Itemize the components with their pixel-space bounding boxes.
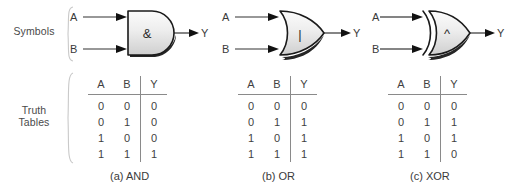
table-row: 0 0 0 <box>88 95 167 115</box>
cell-y: 0 <box>141 114 168 130</box>
cell-a: 0 <box>88 95 114 115</box>
column-header-y: Y <box>141 76 168 95</box>
column-header-a: A <box>388 76 414 95</box>
column-header-y: Y <box>441 76 468 95</box>
cell-a: 1 <box>88 130 114 146</box>
table-row: 1 0 0 <box>88 130 167 146</box>
cell-y: 1 <box>441 130 468 146</box>
cell-a: 1 <box>238 130 264 146</box>
gate-xor-input-wires <box>380 13 423 53</box>
column-header-b: B <box>414 76 441 95</box>
column-header-y: Y <box>291 76 318 95</box>
cell-b: 0 <box>264 130 291 146</box>
row-label-symbols: Symbols <box>6 25 62 37</box>
caption-xor: (c) XOR <box>410 170 450 182</box>
cell-b: 1 <box>414 146 441 162</box>
cell-b: 1 <box>114 114 141 130</box>
column-header-b: B <box>114 76 141 95</box>
gate-or-output-wire <box>323 29 351 37</box>
column-header-a: A <box>88 76 114 95</box>
cell-a: 0 <box>388 95 414 115</box>
cell-b: 1 <box>264 146 291 162</box>
cell-b: 0 <box>114 95 141 115</box>
cell-y: 1 <box>291 130 318 146</box>
cell-y: 0 <box>141 130 168 146</box>
cell-a: 1 <box>88 146 114 162</box>
gate-symbol-and: A B Y & <box>70 5 220 67</box>
cell-y: 1 <box>441 114 468 130</box>
table-row: 1 1 1 <box>88 146 167 162</box>
cell-a: 0 <box>238 95 264 115</box>
gate-and-output-wire <box>173 29 199 37</box>
table-row: 1 1 1 <box>238 146 317 162</box>
cell-y: 1 <box>141 146 168 162</box>
table-row: 0 1 1 <box>388 114 467 130</box>
gate-or-body <box>280 11 324 55</box>
cell-b: 0 <box>414 95 441 115</box>
cell-b: 1 <box>114 146 141 162</box>
row-label-truth-line2: Tables <box>6 116 62 128</box>
truth-table-and: A B Y 0 0 0 0 1 0 1 0 0 1 1 <box>88 76 192 162</box>
cell-a: 1 <box>388 146 414 162</box>
table-header-row: A B Y <box>88 76 167 95</box>
gate-symbol-xor: A B Y ^ <box>372 5 509 67</box>
table-row: 1 0 1 <box>388 130 467 146</box>
table-header-row: A B Y <box>388 76 467 95</box>
table-row: 0 0 0 <box>238 95 317 115</box>
column-header-a: A <box>238 76 264 95</box>
caption-or: (b) OR <box>262 170 295 182</box>
ampersand-icon: & <box>143 26 152 41</box>
gate-or-input-wires <box>235 13 279 53</box>
cell-y: 0 <box>291 95 318 115</box>
truth-table-or: A B Y 0 0 0 0 1 1 1 0 1 1 1 <box>238 76 342 162</box>
gate-xor-outer-arc <box>423 11 431 55</box>
cell-y: 0 <box>441 95 468 115</box>
cell-y: 1 <box>291 146 318 162</box>
cell-a: 1 <box>238 146 264 162</box>
cell-a: 0 <box>388 114 414 130</box>
table-row: 0 1 0 <box>88 114 167 130</box>
cell-b: 0 <box>414 130 441 146</box>
cell-a: 1 <box>388 130 414 146</box>
cell-a: 0 <box>88 114 114 130</box>
table-row: 1 0 1 <box>238 130 317 146</box>
table-row: 1 1 0 <box>388 146 467 162</box>
table-row: 0 1 1 <box>238 114 317 130</box>
gate-xor-output-wire <box>469 29 495 37</box>
cell-y: 0 <box>141 95 168 115</box>
vertical-bar-icon: | <box>298 27 301 42</box>
row-label-truth-tables: Truth Tables <box>6 104 62 128</box>
gate-and-input-wires <box>83 13 127 53</box>
row-label-symbols-text: Symbols <box>14 25 55 37</box>
truth-table-xor: A B Y 0 0 0 0 1 1 1 0 1 1 1 <box>388 76 492 162</box>
cell-a: 0 <box>238 114 264 130</box>
cell-b: 0 <box>264 95 291 115</box>
cell-b: 1 <box>414 114 441 130</box>
cell-b: 1 <box>264 114 291 130</box>
row-label-truth-line1: Truth <box>6 104 62 116</box>
table-header-row: A B Y <box>238 76 317 95</box>
caret-icon: ^ <box>444 26 451 41</box>
cell-y: 1 <box>291 114 318 130</box>
cell-y: 0 <box>441 146 468 162</box>
caption-and: (a) AND <box>110 170 149 182</box>
table-row: 0 0 0 <box>388 95 467 115</box>
brace-truth-tables <box>62 72 76 164</box>
cell-b: 0 <box>114 130 141 146</box>
column-header-b: B <box>264 76 291 95</box>
gate-symbol-or: A B Y | <box>222 5 372 67</box>
